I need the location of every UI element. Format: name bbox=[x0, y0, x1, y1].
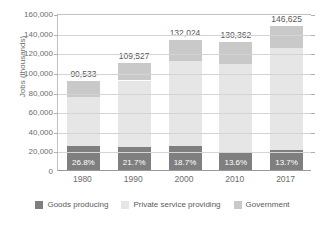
y-axis-tick-labels: 160,000140,000120,000100,00080,00060,000… bbox=[0, 0, 56, 225]
y-tick-label: 40,000 bbox=[29, 127, 53, 136]
x-tick-label: 1990 bbox=[108, 174, 159, 184]
x-axis-tick-labels: 19801990200020102017 bbox=[57, 174, 311, 188]
gridline bbox=[58, 54, 311, 55]
y-axis-tick-mark bbox=[311, 133, 315, 134]
bar-stack[interactable]: 18.7%132,024 bbox=[169, 40, 202, 170]
legend-item[interactable]: Government bbox=[234, 200, 290, 209]
bar-stack[interactable]: 13.7%146,625 bbox=[270, 26, 303, 170]
y-axis-tick-mark bbox=[54, 113, 58, 114]
y-tick-label: 80,000 bbox=[29, 88, 53, 97]
gridline bbox=[58, 152, 311, 153]
legend-item[interactable]: Goods producing bbox=[35, 200, 108, 209]
bar-segment-private-service-providing[interactable] bbox=[67, 97, 100, 146]
bar-segment-government[interactable] bbox=[219, 42, 252, 64]
bar-segment-private-service-providing[interactable] bbox=[270, 48, 303, 150]
y-tick-label: 160,000 bbox=[24, 10, 53, 19]
legend-label: Goods producing bbox=[47, 200, 108, 209]
bar-percent-label: 21.7% bbox=[118, 158, 151, 167]
gridline bbox=[58, 133, 311, 134]
bar-percent-label: 13.6% bbox=[219, 158, 252, 167]
bar-segment-government[interactable] bbox=[118, 63, 151, 81]
y-tick-label: 60,000 bbox=[29, 108, 53, 117]
y-axis-tick-mark bbox=[54, 54, 58, 55]
x-tick-label: 1980 bbox=[57, 174, 108, 184]
bar-total-label: 132,024 bbox=[161, 28, 210, 38]
y-axis-tick-mark bbox=[54, 15, 58, 16]
y-axis-tick-mark bbox=[311, 74, 315, 75]
x-tick-label: 2010 bbox=[209, 174, 260, 184]
legend-item[interactable]: Private service providing bbox=[121, 200, 220, 209]
gridline bbox=[58, 35, 311, 36]
bar-series-container: 26.8%90,53321.7%109,52718.7%132,02413.6%… bbox=[58, 15, 311, 170]
y-tick-label: 0 bbox=[49, 167, 53, 176]
bar-total-label: 146,625 bbox=[262, 14, 311, 24]
y-axis-tick-mark bbox=[54, 94, 58, 95]
y-axis-tick-mark bbox=[311, 35, 315, 36]
y-axis-tick-mark bbox=[311, 15, 315, 16]
stacked-bar-chart: Jobs (thousands) 160,000140,000120,00010… bbox=[0, 0, 325, 225]
legend-swatch-icon bbox=[121, 201, 129, 209]
bar-percent-label: 13.7% bbox=[270, 158, 303, 167]
y-tick-label: 120,000 bbox=[24, 49, 53, 58]
y-axis-tick-mark bbox=[311, 54, 315, 55]
bar-percent-label: 18.7% bbox=[169, 158, 202, 167]
y-tick-label: 100,000 bbox=[24, 68, 53, 77]
y-axis-tick-mark bbox=[54, 35, 58, 36]
gridline bbox=[58, 94, 311, 95]
y-axis-tick-mark bbox=[311, 94, 315, 95]
y-axis-tick-mark bbox=[311, 113, 315, 114]
legend-swatch-icon bbox=[35, 201, 43, 209]
chart-legend: Goods producingPrivate service providing… bbox=[0, 200, 325, 209]
y-tick-label: 20,000 bbox=[29, 147, 53, 156]
y-axis-tick-mark bbox=[311, 152, 315, 153]
bar-percent-label: 26.8% bbox=[67, 158, 100, 167]
bar-segment-government[interactable] bbox=[169, 40, 202, 60]
plot-area: 26.8%90,53321.7%109,52718.7%132,02413.6%… bbox=[57, 14, 311, 171]
bar-segment-government[interactable] bbox=[270, 26, 303, 48]
x-tick-label: 2017 bbox=[260, 174, 311, 184]
x-tick-label: 2000 bbox=[159, 174, 210, 184]
y-axis-tick-mark bbox=[54, 74, 58, 75]
bar-segment-government[interactable] bbox=[67, 81, 100, 97]
y-tick-label: 140,000 bbox=[24, 29, 53, 38]
gridline bbox=[58, 113, 311, 114]
y-axis-tick-mark bbox=[54, 133, 58, 134]
legend-label: Private service providing bbox=[133, 200, 220, 209]
bar-segment-private-service-providing[interactable] bbox=[219, 64, 252, 152]
y-axis-tick-mark bbox=[54, 152, 58, 153]
legend-label: Government bbox=[246, 200, 290, 209]
bar-stack[interactable]: 21.7%109,527 bbox=[118, 63, 151, 170]
bar-stack[interactable]: 13.6%130,362 bbox=[219, 42, 252, 170]
gridline bbox=[58, 74, 311, 75]
legend-swatch-icon bbox=[234, 201, 242, 209]
bar-total-label: 109,527 bbox=[110, 51, 159, 61]
